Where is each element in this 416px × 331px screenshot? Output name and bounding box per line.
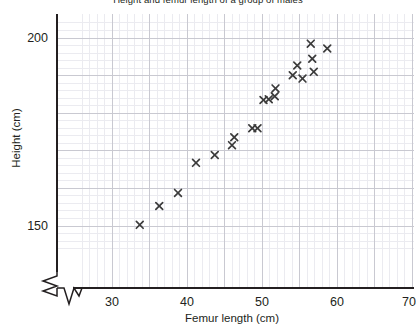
data-point-marker [299,75,306,82]
x-axis-title: Femur length (cm) [56,312,408,324]
x-axis-tick-label-50: 50 [255,295,269,309]
y-axis-tick-label-200: 200 [4,31,48,45]
x-axis-break-mark [57,288,82,304]
x-axis-tick-label-40: 40 [180,295,194,309]
plot-canvas [0,0,416,331]
major-gridlines [57,14,414,288]
x-axis-tick-label-70: 70 [402,295,416,309]
data-point-marker [310,68,317,75]
x-axis-tick-label-30: 30 [105,295,119,309]
data-point-marker [175,190,182,197]
x-axis-tick-label-60: 60 [330,295,344,309]
scatter-plot-figure: Height and femur length of a group of ma… [0,0,416,331]
y-axis-title: Height (cm) [10,98,22,178]
y-axis-break-mark [43,272,57,296]
data-point-marker [193,159,200,166]
y-axis-tick-label-150: 150 [4,219,48,233]
